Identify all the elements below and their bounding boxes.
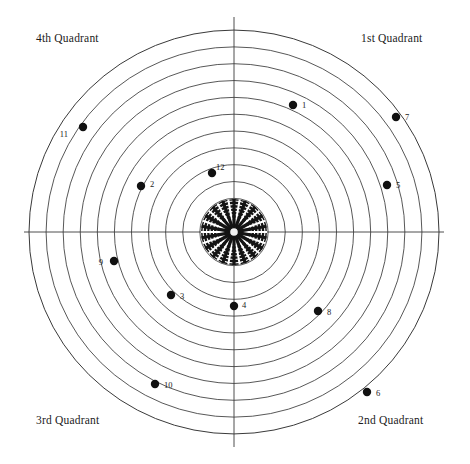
data-point-12[interactable] [208,169,216,177]
data-point-8[interactable] [314,307,322,315]
data-point-label-10: 10 [164,380,173,390]
data-point-label-6: 6 [376,388,380,398]
data-point-label-1: 1 [302,100,306,110]
data-point-9[interactable] [110,257,118,265]
polar-chart-figure: 123456789101112 4th Quadrant 1st Quadran… [0,0,470,464]
data-point-7[interactable] [392,113,400,121]
quadrant-label-fourth: 4th Quadrant [36,32,99,44]
data-point-label-2: 2 [150,179,154,189]
data-point-label-12: 12 [216,162,225,172]
data-point-6[interactable] [363,388,371,396]
quadrant-label-second: 2nd Quadrant [358,414,423,426]
data-point-4[interactable] [230,302,238,310]
data-point-label-11: 11 [60,129,68,139]
quadrant-label-first: 1st Quadrant [361,32,422,44]
quadrant-label-third: 3rd Quadrant [36,414,99,426]
data-point-label-8: 8 [327,307,331,317]
data-point-label-9: 9 [99,257,103,267]
data-point-label-3: 3 [180,291,184,301]
data-point-2[interactable] [137,182,145,190]
hub-core [230,228,239,237]
radial-rosette-hub [201,199,267,265]
data-point-1[interactable] [289,101,297,109]
data-point-11[interactable] [79,123,87,131]
data-point-label-7: 7 [405,112,409,122]
data-point-10[interactable] [151,380,159,388]
polar-plot-canvas: 123456789101112 [0,0,470,464]
data-point-3[interactable] [167,291,175,299]
data-point-5[interactable] [383,181,391,189]
data-point-label-5: 5 [396,180,400,190]
